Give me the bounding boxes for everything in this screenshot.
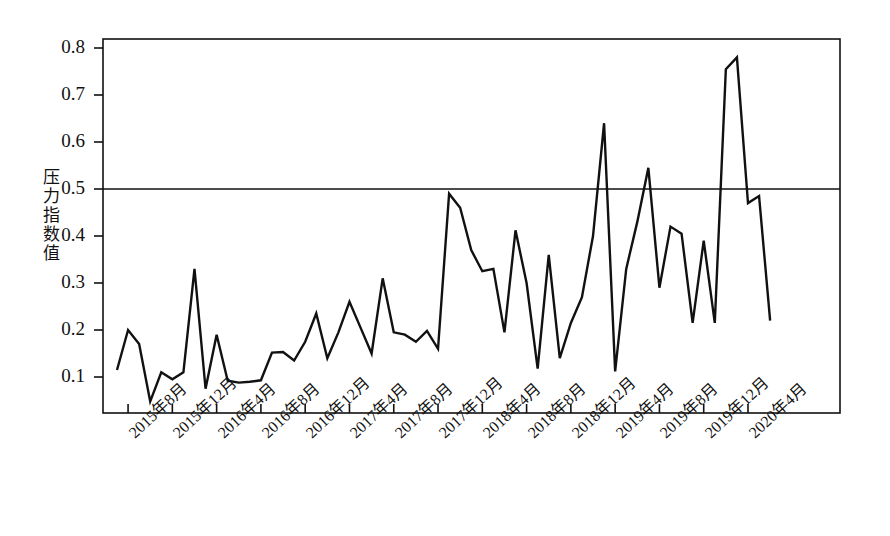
chart-root: 压力指数值 0.10.20.30.40.50.60.70.82015年8月201… <box>0 0 890 536</box>
y-axis-tick-label: 0.8 <box>39 36 85 58</box>
y-axis-tick-label: 0.5 <box>39 177 85 199</box>
y-axis-tick-label: 0.1 <box>39 365 85 387</box>
plot-border <box>103 39 840 413</box>
line-chart-plot <box>0 0 890 536</box>
y-axis-tick-label: 0.4 <box>39 224 85 246</box>
y-axis-tick-label: 0.3 <box>39 271 85 293</box>
y-axis-tick-label: 0.7 <box>39 83 85 105</box>
y-axis-tick-label: 0.2 <box>39 318 85 340</box>
y-axis-tick-label: 0.6 <box>39 130 85 152</box>
data-series-line <box>117 57 770 401</box>
